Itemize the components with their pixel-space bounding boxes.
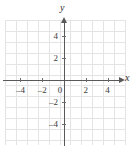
gridline-horizontal [5, 118, 125, 119]
gridline-vertical [27, 20, 28, 145]
x-axis-tick [86, 78, 87, 82]
y-axis-tick [62, 36, 66, 37]
gridline-vertical [92, 20, 93, 145]
x-axis-label: x [125, 73, 129, 83]
gridline-vertical [103, 20, 104, 145]
gridline-horizontal [5, 31, 125, 32]
gridline-horizontal [5, 53, 125, 54]
x-axis-tick-label: 4 [98, 85, 118, 95]
gridline-horizontal [5, 107, 125, 108]
coordinate-plane-figure: –4–202442–2–4 x y [0, 0, 135, 153]
x-axis-tick [20, 78, 21, 82]
gridline-horizontal [5, 64, 125, 65]
gridline-horizontal [5, 96, 125, 97]
gridline-vertical [60, 20, 61, 145]
x-axis-tick [42, 78, 43, 82]
y-axis-tick-label: –2 [38, 97, 58, 107]
grid [5, 20, 125, 145]
gridline-vertical [5, 20, 6, 145]
y-axis-tick [62, 58, 66, 59]
y-axis-tick [62, 102, 66, 103]
y-axis-tick [62, 124, 66, 125]
gridline-horizontal [5, 75, 125, 76]
y-axis-tick-label: –4 [38, 119, 58, 129]
y-axis-tick-label: 2 [38, 53, 58, 63]
gridline-vertical [16, 20, 17, 145]
y-axis-label: y [60, 3, 64, 13]
y-axis-line [64, 20, 65, 146]
x-axis-tick-label: 0 [50, 85, 70, 95]
y-axis-arrow-icon [61, 17, 67, 23]
gridline-vertical [81, 20, 82, 145]
gridline-horizontal [5, 140, 125, 141]
gridline-vertical [114, 20, 115, 145]
y-axis-tick-label: 4 [38, 31, 58, 41]
gridline-vertical [70, 20, 71, 145]
x-axis-tick-label: 2 [76, 85, 96, 95]
gridline-horizontal [5, 129, 125, 130]
gridline-horizontal [5, 42, 125, 43]
x-axis-tick [108, 78, 109, 82]
x-axis-tick-label: –4 [10, 85, 30, 95]
